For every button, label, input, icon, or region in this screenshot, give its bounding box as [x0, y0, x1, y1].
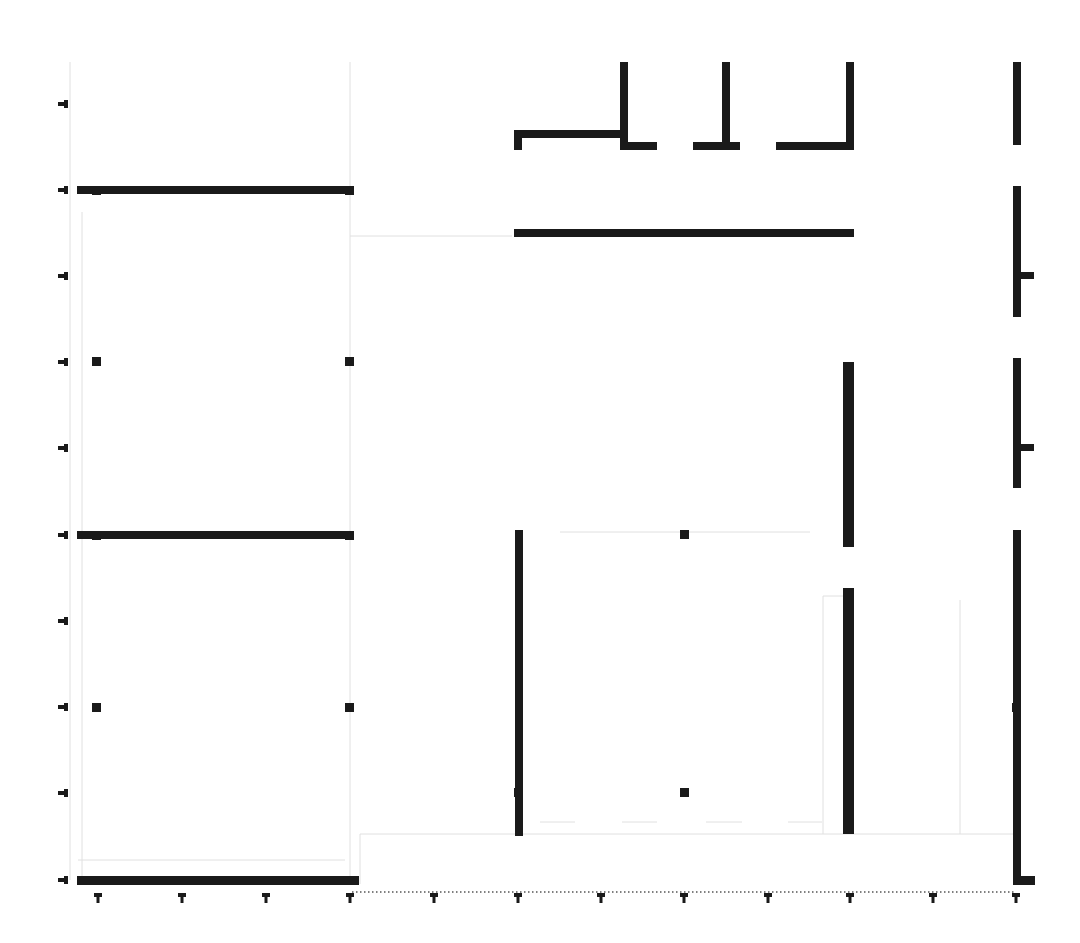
grid-marker-arrow-icon: [58, 789, 68, 797]
grid-marker-arrow-icon: [58, 444, 68, 452]
wall-segment: [620, 142, 657, 150]
structural-columns: [92, 186, 1021, 797]
column-square: [345, 531, 354, 540]
column-square: [345, 186, 354, 195]
column-square: [92, 186, 101, 195]
wall-segment: [843, 362, 854, 547]
wall-segment: [1021, 444, 1034, 451]
wall-segment: [722, 62, 730, 150]
column-square: [92, 703, 101, 712]
faint-linework: [70, 62, 1015, 884]
column-square: [680, 530, 689, 539]
grid-marker-arrow-icon: [58, 617, 68, 625]
column-square: [1012, 703, 1021, 712]
wall-segment: [514, 130, 624, 138]
grid-marker-arrow-icon: [58, 876, 68, 884]
wall-segment: [514, 130, 522, 150]
grid-marker-tee-icon: [764, 893, 772, 903]
wall-segment: [1013, 186, 1021, 317]
grid-marker-tee-icon: [929, 893, 937, 903]
grid-marker-tee-icon: [680, 893, 688, 903]
grid-marker-tee-icon: [346, 893, 354, 903]
bottom-grid-markers: [94, 893, 1020, 903]
column-square: [680, 788, 689, 797]
wall-segment: [77, 186, 354, 194]
grid-marker-tee-icon: [94, 893, 102, 903]
wall-segment: [1013, 62, 1021, 145]
grid-marker-tee-icon: [846, 893, 854, 903]
wall-segment: [843, 588, 854, 834]
wall-segment: [77, 531, 354, 539]
wall-segment: [77, 876, 359, 885]
grid-marker-tee-icon: [178, 893, 186, 903]
wall-segment: [620, 62, 628, 150]
column-square: [92, 357, 101, 366]
wall-segment: [1013, 876, 1035, 885]
floor-plan-drawing: [0, 0, 1080, 943]
grid-marker-arrow-icon: [58, 358, 68, 366]
grid-marker-arrow-icon: [58, 703, 68, 711]
column-square: [345, 357, 354, 366]
grid-marker-arrow-icon: [58, 186, 68, 194]
column-square: [92, 531, 101, 540]
wall-segment: [1021, 272, 1034, 279]
grid-marker-arrow-icon: [58, 100, 68, 108]
left-grid-markers: [58, 100, 68, 884]
grid-marker-arrow-icon: [58, 531, 68, 539]
grid-marker-tee-icon: [597, 893, 605, 903]
wall-segment: [693, 142, 740, 150]
grid-marker-tee-icon: [430, 893, 438, 903]
wall-segment: [514, 229, 854, 237]
grid-marker-arrow-icon: [58, 272, 68, 280]
column-square: [514, 788, 523, 797]
wall-segment: [776, 142, 854, 150]
column-square: [345, 703, 354, 712]
walls: [77, 62, 1035, 885]
grid-marker-tee-icon: [262, 893, 270, 903]
grid-marker-tee-icon: [514, 893, 522, 903]
wall-segment: [846, 62, 854, 150]
grid-marker-tee-icon: [1012, 893, 1020, 903]
wall-segment: [1013, 358, 1021, 488]
